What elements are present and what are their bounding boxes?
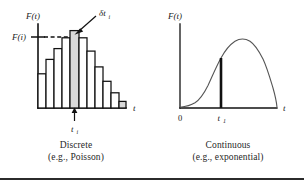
discrete-panel: F(t) t F(i) δt i <box>0 0 152 185</box>
continuous-origin-label: 0 <box>178 113 182 123</box>
histogram-bar <box>62 38 70 108</box>
discrete-value-label: F(i) <box>11 32 26 42</box>
t-i-marker: t i <box>71 108 79 135</box>
t-1-label-group: t 1 <box>218 113 227 124</box>
continuous-y-axis-label: F(t) <box>167 11 182 21</box>
t-i-label-subscript: i <box>77 129 79 134</box>
delta-t-label: δt <box>99 8 106 18</box>
discrete-caption-line-2: (e.g., Poisson) <box>0 152 152 164</box>
delta-t-pointer-line <box>79 16 96 31</box>
t-i-label: t <box>71 124 74 134</box>
t-1-label-subscript: 1 <box>223 118 226 124</box>
distribution-comparison-figure: F(t) t F(i) δt i <box>0 0 304 185</box>
histogram-bar <box>46 59 54 108</box>
bottom-divider-rule <box>0 178 304 180</box>
continuous-distribution-curve <box>180 39 277 107</box>
continuous-x-axis-label: t <box>283 103 286 113</box>
continuous-curve-chart: F(t) t 0 t 1 <box>152 6 304 134</box>
histogram-bar <box>111 93 119 108</box>
delta-t-callout: δt i <box>75 8 111 35</box>
discrete-caption-line-1: Discrete <box>0 140 152 152</box>
continuous-caption-line-1: Continuous <box>152 140 304 152</box>
delta-t-label-subscript: i <box>109 14 111 20</box>
discrete-caption: Discrete (e.g., Poisson) <box>0 140 152 163</box>
histogram-bar <box>103 81 111 108</box>
continuous-caption-line-2: (e.g., exponential) <box>152 152 304 164</box>
histogram-bar <box>54 49 62 108</box>
discrete-x-axis-label: t <box>133 103 136 113</box>
histogram-bar-highlighted <box>70 31 79 108</box>
continuous-panel: F(t) t 0 t 1 Continuous (e.g., exponenti… <box>152 0 304 185</box>
continuous-caption: Continuous (e.g., exponential) <box>152 140 304 163</box>
histogram-bar <box>95 67 103 108</box>
histogram-bar <box>38 74 46 108</box>
histogram-bar <box>87 51 95 108</box>
discrete-histogram-chart: F(t) t F(i) δt i <box>0 6 152 134</box>
histogram-bar <box>79 38 87 108</box>
histogram-bar <box>119 101 126 108</box>
discrete-y-axis-label: F(t) <box>25 11 40 21</box>
t-1-label: t <box>218 113 221 123</box>
